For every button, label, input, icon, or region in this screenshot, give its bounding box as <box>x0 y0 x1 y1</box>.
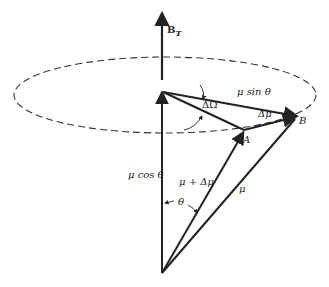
precession-path-ellipse <box>14 57 316 133</box>
field-label: BT <box>167 24 182 38</box>
mu-plus-delta-mu-label: μ + Δμ <box>179 176 214 187</box>
precession-diagram: BT μ sin θ ΔΩ Δμ B A μ cos θ μ + Δμ μ θ <box>0 0 329 287</box>
point-b-label: B <box>298 115 306 126</box>
mu-sin-theta-label: μ sin θ <box>237 86 271 97</box>
theta-label: θ <box>178 196 184 207</box>
mu-label: μ <box>239 183 246 194</box>
mu-plus-delta-mu-vector <box>162 133 243 273</box>
theta-arc-left <box>165 201 174 203</box>
theta-arc-right <box>188 205 197 213</box>
mu-cos-theta-label: μ cos θ <box>128 169 164 180</box>
delta-omega-arc-bottom <box>184 116 202 130</box>
point-a-label: A <box>242 134 250 145</box>
delta-omega-label: ΔΩ <box>202 99 218 110</box>
delta-mu-label: Δμ <box>257 108 272 119</box>
mu-sin-theta-vector <box>163 92 296 116</box>
delta-omega-arc-top <box>200 85 204 99</box>
